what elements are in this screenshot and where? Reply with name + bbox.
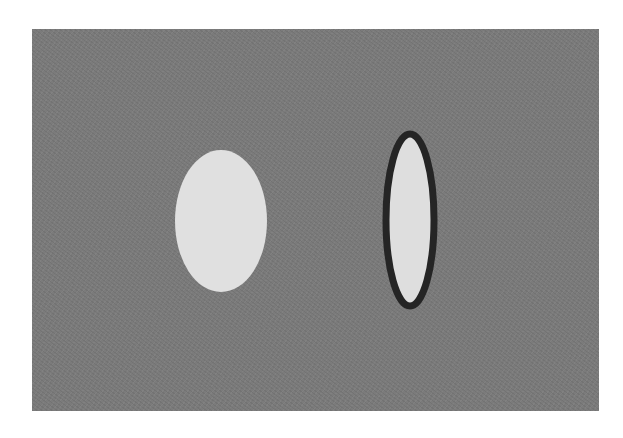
filled-ellipse [175, 150, 267, 292]
outlined-ellipse [386, 134, 434, 306]
shapes-canvas [0, 0, 623, 438]
